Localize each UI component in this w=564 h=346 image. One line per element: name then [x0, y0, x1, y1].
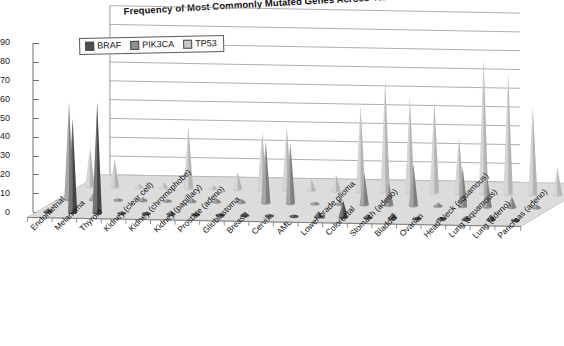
- x-axis-label: AML: [275, 218, 293, 236]
- x-axis-label: Breast: [225, 212, 248, 235]
- legend-swatch-tp53: [183, 39, 192, 48]
- legend-label-tp53: TP53: [195, 38, 217, 48]
- legend-swatch-pik3ca: [130, 40, 139, 49]
- x-axis-label: Thyroid: [78, 207, 104, 233]
- chart-page: Frequency of Most Commonly Mutated Genes…: [0, 0, 564, 346]
- x-axis-label: Ovarian: [398, 212, 425, 239]
- chart-legend: BRAF PIK3CA TP53: [79, 35, 224, 55]
- legend-swatch-braf: [85, 41, 94, 50]
- legend-label-pik3ca: PIK3CA: [142, 39, 174, 50]
- legend-item-pik3ca[interactable]: PIK3CA: [130, 39, 174, 50]
- x-axis-label: Pancreas (adeno): [496, 188, 549, 241]
- legend-label-braf: BRAF: [97, 40, 121, 51]
- legend-item-tp53[interactable]: TP53: [183, 38, 217, 49]
- legend-item-braf[interactable]: BRAF: [85, 40, 121, 51]
- x-axis-label: Cervix: [250, 213, 273, 236]
